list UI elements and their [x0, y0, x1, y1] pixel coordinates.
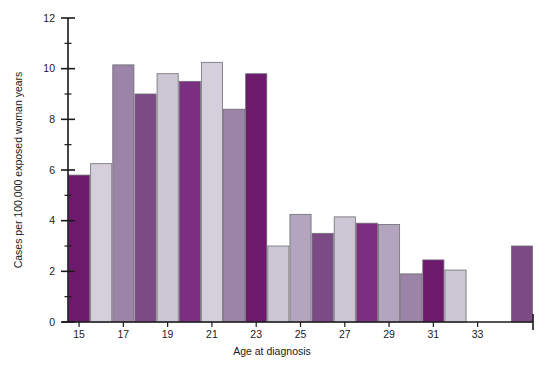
bar-age-21 — [201, 62, 222, 322]
y-tick-label-4: 4 — [49, 214, 55, 226]
x-tick-label-23: 23 — [250, 328, 262, 340]
bar-age-22 — [224, 109, 245, 322]
bar-age-17 — [113, 65, 134, 322]
x-tick-label-31: 31 — [428, 328, 440, 340]
x-tick-label-17: 17 — [118, 328, 130, 340]
bar-age-15 — [69, 175, 90, 322]
x-tick-label-27: 27 — [339, 328, 351, 340]
y-tick-label-10: 10 — [43, 62, 55, 74]
x-tick-label-29: 29 — [383, 328, 395, 340]
bar-age-27 — [334, 217, 355, 322]
y-tick-label-0: 0 — [49, 316, 55, 328]
bar-chart: 024681012 15171921232527293133 Cases per… — [0, 0, 547, 369]
bar-age-29 — [379, 224, 400, 322]
bar-age-23 — [246, 74, 267, 322]
bar-age-31 — [423, 260, 444, 322]
bar-age-28 — [356, 223, 377, 322]
bar-age-16 — [91, 164, 112, 322]
y-tick-label-2: 2 — [49, 265, 55, 277]
y-tick-label-12: 12 — [43, 12, 55, 24]
x-tick-label-15: 15 — [73, 328, 85, 340]
bar-age-32 — [445, 270, 466, 322]
bar-age-19 — [157, 74, 178, 322]
x-tick-label-25: 25 — [295, 328, 307, 340]
x-tick-label-21: 21 — [206, 328, 218, 340]
bar-age-30 — [401, 274, 422, 322]
bar-age-18 — [135, 94, 156, 322]
x-tick-label-33: 33 — [472, 328, 484, 340]
x-tick-label-19: 19 — [162, 328, 174, 340]
y-axis-title: Cases per 100,000 exposed woman years — [12, 72, 24, 269]
y-tick-label-8: 8 — [49, 113, 55, 125]
chart-canvas: 024681012 15171921232527293133 Cases per… — [0, 0, 547, 369]
bar-age-25 — [290, 214, 311, 322]
bar-age-35 — [511, 246, 532, 322]
bar-age-26 — [312, 233, 333, 322]
x-axis-title: Age at diagnosis — [233, 345, 311, 357]
y-tick-label-6: 6 — [49, 164, 55, 176]
bar-age-20 — [179, 81, 200, 322]
bar-age-24 — [268, 246, 289, 322]
